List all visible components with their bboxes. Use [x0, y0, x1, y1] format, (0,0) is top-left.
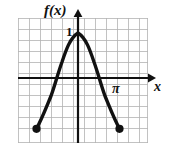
- x-axis-label: x: [154, 80, 161, 94]
- plot-canvas: [0, 0, 170, 158]
- x-tick-label-pi: π: [112, 82, 120, 96]
- endpoint-left: [32, 125, 40, 133]
- endpoint-right: [115, 125, 123, 133]
- graph-figure: f(x) 1 π x: [0, 0, 170, 158]
- function-label: f(x): [44, 3, 67, 18]
- y-value-label-one: 1: [66, 25, 73, 38]
